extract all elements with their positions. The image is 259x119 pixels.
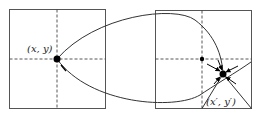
warp-diagram: (x, y) (x′, y′): [0, 0, 259, 119]
source-label: (x, y): [27, 43, 53, 54]
arrow-icon: [226, 66, 238, 72]
target-point-dot: [220, 71, 227, 78]
arrow-icon: [207, 64, 220, 71]
target-label: (x′, y′): [206, 96, 236, 107]
source-point-dot: [54, 56, 61, 63]
upper-mapping-curve: [57, 13, 223, 74]
reference-point-dot: [200, 57, 204, 61]
